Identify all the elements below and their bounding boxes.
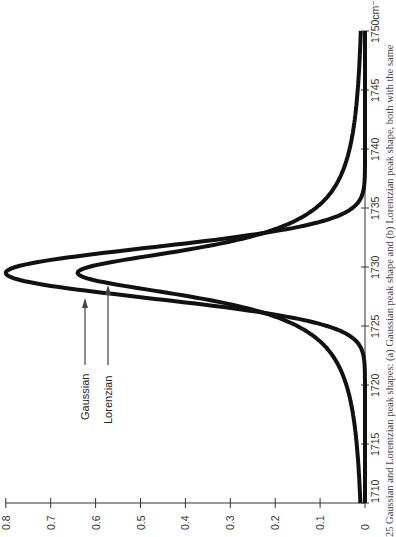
intensity-tick-label: 0.3 <box>224 515 236 530</box>
intensity-tick-label: 0.5 <box>135 515 147 530</box>
annotations: Gaussian Lorenzian <box>79 285 114 424</box>
wavenumber-tick-label: 1720 <box>369 373 381 397</box>
wavenumber-tick-label: 1745 <box>369 78 381 102</box>
spectrum-chart: 00.10.20.30.40.50.60.70.8171017151720172… <box>0 0 396 537</box>
wavenumber-tick-label: 1715 <box>369 432 381 456</box>
wavenumber-tick-label: 1735 <box>369 196 381 220</box>
intensity-tick-label: 0.8 <box>0 515 12 530</box>
intensity-tick-label: 0.1 <box>314 515 326 530</box>
curves <box>6 31 365 503</box>
intensity-tick-label: 0.7 <box>45 515 57 530</box>
gaussian-arrowhead-icon <box>82 298 88 308</box>
lorenzian-arrowhead-icon <box>105 285 111 295</box>
wavenumber-tick-label: 1730 <box>369 255 381 279</box>
wavenumber-tick-label: 1750cm⁻¹ <box>369 0 381 43</box>
intensity-tick-label: 0.6 <box>90 515 102 530</box>
axes: 00.10.20.30.40.50.60.70.8171017151720172… <box>0 0 381 530</box>
gaussian-curve <box>6 31 365 503</box>
intensity-tick-label: 0.4 <box>179 515 191 530</box>
wavenumber-tick-label: 1740 <box>369 137 381 161</box>
wavenumber-tick-label: 1725 <box>369 314 381 338</box>
lorenzian-curve <box>78 31 361 503</box>
wavenumber-tick-label: 1710 <box>369 479 381 503</box>
intensity-tick-label: 0 <box>359 524 371 530</box>
lorenzian-label: Lorenzian <box>102 376 114 424</box>
figure-caption: 25 Gaussian and Lorentzian peak shapes: … <box>384 44 396 537</box>
gaussian-label: Gaussian <box>79 374 91 420</box>
intensity-tick-label: 0.2 <box>269 515 281 530</box>
